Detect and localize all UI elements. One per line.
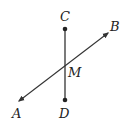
label-a: A	[11, 106, 21, 121]
label-b: B	[109, 19, 120, 34]
label-m: M	[67, 65, 82, 80]
line-ab	[19, 33, 108, 101]
geometry-diagram: C B M A D	[0, 0, 124, 129]
label-c: C	[60, 9, 70, 24]
point-c-dot	[63, 27, 68, 32]
point-d-dot	[63, 98, 68, 103]
label-d: D	[58, 106, 70, 121]
